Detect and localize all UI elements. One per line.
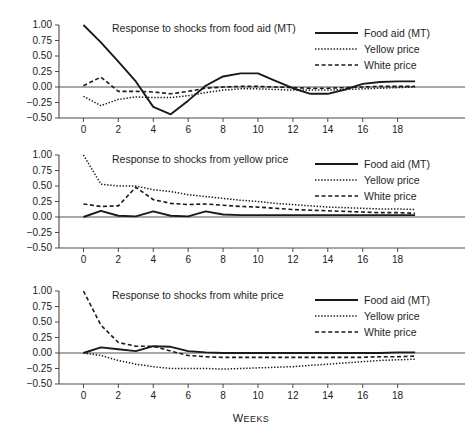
chart-panel-1: 1.000.750.500.250.00−0.25−0.500246810121… [0,12,468,142]
x-tick-label: 16 [357,390,369,401]
y-tick-label: 1.00 [33,285,53,296]
x-tick-label: 8 [220,390,226,401]
y-tick-label: 0.50 [33,50,53,61]
y-tick-label: 0.00 [33,347,53,358]
x-tick-label: 4 [150,254,156,265]
y-tick-label: 0.75 [33,35,53,46]
y-tick-label: 1.00 [33,19,53,30]
x-tick-label: 18 [392,390,404,401]
legend-label: Yellow price [364,174,420,186]
x-tick-label: 18 [392,124,404,135]
y-tick-label: 0.25 [33,196,53,207]
x-tick-label: 6 [185,390,191,401]
x-tick-label: 8 [220,254,226,265]
x-tick-label: 6 [185,124,191,135]
x-tick-label: 4 [150,390,156,401]
x-axis-title: WEEKS [233,412,269,424]
chart-panel-3: 1.000.750.500.250.00−0.25−0.500246810121… [0,279,468,424]
y-tick-label: −0.50 [27,378,53,389]
x-tick-label: 2 [116,124,122,135]
legend-label: Yellow price [364,43,420,55]
panel-title: Response to shocks from food aid (MT) [112,22,296,34]
x-tick-label: 12 [287,390,299,401]
x-tick-label: 14 [322,390,334,401]
legend-label: White price [364,59,417,71]
x-tick-label: 8 [220,124,226,135]
y-tick-label: 0.50 [33,180,53,191]
x-tick-label: 12 [287,124,299,135]
y-tick-label: −0.25 [27,97,53,108]
x-tick-label: 10 [252,124,264,135]
legend-label: White price [364,190,417,202]
legend-label: Yellow price [364,310,420,322]
x-tick-label: 10 [252,390,264,401]
x-tick-label: 2 [116,390,122,401]
legend-label: White price [364,326,417,338]
x-tick-label: 12 [287,254,299,265]
y-tick-label: 0.50 [33,316,53,327]
y-tick-label: 0.75 [33,301,53,312]
series-line-solid [83,346,415,353]
x-tick-label: 2 [116,254,122,265]
x-tick-label: 18 [392,254,404,265]
x-tick-label: 16 [357,254,369,265]
y-tick-label: −0.25 [27,363,53,374]
series-line-dotted [83,353,415,369]
y-tick-label: −0.50 [27,242,53,253]
series-line-solid [83,211,415,217]
series-line-dotted [83,87,415,106]
chart-panel-2: 1.000.750.500.250.00−0.25−0.500246810121… [0,143,468,274]
y-tick-label: 0.25 [33,332,53,343]
x-tick-label: 0 [81,390,87,401]
x-tick-label: 6 [185,254,191,265]
x-tick-label: 14 [322,254,334,265]
y-tick-label: −0.25 [27,227,53,238]
x-tick-label: 16 [357,124,369,135]
legend-label: Food aid (MT) [364,294,430,306]
legend-label: Food aid (MT) [364,158,430,170]
impulse-response-figure: 1.000.750.500.250.00−0.25−0.500246810121… [0,0,468,424]
y-tick-label: 0.00 [33,81,53,92]
x-tick-label: 14 [322,124,334,135]
x-tick-label: 0 [81,254,87,265]
y-tick-label: 0.75 [33,165,53,176]
x-tick-label: 10 [252,254,264,265]
panel-title: Response to shocks from white price [112,289,284,301]
legend-label: Food aid (MT) [364,27,430,39]
y-tick-label: −0.50 [27,112,53,123]
panel-title: Response to shocks from yellow price [112,153,288,165]
y-tick-label: 1.00 [33,149,53,160]
x-tick-label: 0 [81,124,87,135]
y-tick-label: 0.00 [33,211,53,222]
y-tick-label: 0.25 [33,66,53,77]
x-tick-label: 4 [150,124,156,135]
